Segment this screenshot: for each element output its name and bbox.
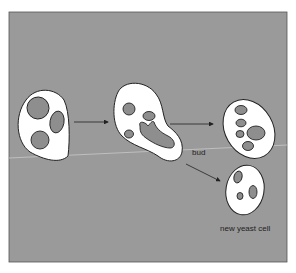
label-new-yeast-cell: new yeast cell: [220, 224, 270, 233]
vacuole: [243, 142, 254, 151]
vacuole: [236, 131, 244, 138]
vacuole: [31, 131, 49, 149]
vacuole: [143, 112, 155, 121]
vacuole: [125, 130, 134, 138]
vacuole: [123, 103, 135, 115]
vacuole: [237, 193, 243, 200]
vacuole: [247, 126, 265, 140]
vacuole: [235, 106, 247, 115]
vacuole: [249, 186, 257, 199]
vacuole: [236, 119, 246, 127]
label-bud: bud: [192, 148, 205, 157]
yeast-budding-diagram: bud new yeast cell: [0, 0, 296, 273]
